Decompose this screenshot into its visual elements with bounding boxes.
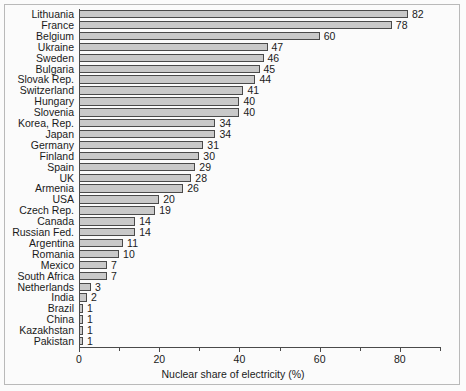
x-axis-tick-label: 80 xyxy=(394,353,406,365)
x-axis-major-tick xyxy=(320,347,321,352)
x-axis-minor-tick xyxy=(119,347,120,351)
x-axis-tick-label: 40 xyxy=(234,353,246,365)
bar-value-label: 60 xyxy=(324,30,336,42)
bar xyxy=(79,195,159,203)
bar-row: Canada14 xyxy=(79,216,440,227)
bar-row: South Africa7 xyxy=(79,271,440,282)
bar xyxy=(79,10,408,18)
bar-value-label: 19 xyxy=(159,204,171,216)
y-axis-line xyxy=(79,9,80,347)
bar-row: USA20 xyxy=(79,194,440,205)
x-axis-tick-label: 60 xyxy=(314,353,326,365)
bar xyxy=(79,206,155,214)
bar xyxy=(79,108,239,116)
bar xyxy=(79,152,199,160)
bar-row: China1 xyxy=(79,314,440,325)
x-axis-major-tick xyxy=(400,347,401,352)
x-axis-tick-label: 0 xyxy=(76,353,82,365)
bar xyxy=(79,184,183,192)
bar xyxy=(79,32,320,40)
bar-value-label: 82 xyxy=(412,8,424,20)
bar xyxy=(79,21,392,29)
bar xyxy=(79,174,191,182)
bar-row: Germany31 xyxy=(79,140,440,151)
x-axis-tick-label: 20 xyxy=(153,353,165,365)
x-axis-major-tick xyxy=(159,347,160,352)
x-axis-line xyxy=(79,347,440,348)
bar xyxy=(79,228,135,236)
bar xyxy=(79,130,215,138)
plot-area: Lithuania82France78Belgium60Ukraine47Swe… xyxy=(79,9,440,347)
bar xyxy=(79,239,123,247)
bar-row: Spain29 xyxy=(79,162,440,173)
bar-row: Armenia26 xyxy=(79,183,440,194)
bar-value-label: 40 xyxy=(243,106,255,118)
bar-row: Finland30 xyxy=(79,151,440,162)
bar-value-label: 44 xyxy=(259,73,271,85)
bar xyxy=(79,272,107,280)
bar xyxy=(79,141,203,149)
bar-row: Hungary40 xyxy=(79,96,440,107)
x-axis-minor-tick xyxy=(440,347,441,351)
x-axis-minor-tick xyxy=(280,347,281,351)
bar-row: France78 xyxy=(79,20,440,31)
bar-row: India2 xyxy=(79,292,440,303)
bar xyxy=(79,250,119,258)
bar-row: Ukraine47 xyxy=(79,42,440,53)
bar xyxy=(79,283,91,291)
bar-row: Slovak Rep.44 xyxy=(79,74,440,85)
bar xyxy=(79,119,215,127)
x-axis-major-tick xyxy=(79,347,80,352)
bar-row: Slovenia40 xyxy=(79,107,440,118)
bar-row: Kazakhstan1 xyxy=(79,325,440,336)
bar xyxy=(79,86,243,94)
x-axis-title: Nuclear share of electricity (%) xyxy=(0,368,466,380)
bar xyxy=(79,97,239,105)
bar xyxy=(79,261,107,269)
bar xyxy=(79,217,135,225)
bar xyxy=(79,65,260,73)
bar-row: Brazil1 xyxy=(79,303,440,314)
bar-row: Netherlands3 xyxy=(79,282,440,293)
bar-value-label: 7 xyxy=(111,270,117,282)
bar-row: Romania10 xyxy=(79,249,440,260)
bar-value-label: 14 xyxy=(139,226,151,238)
x-axis-minor-tick xyxy=(360,347,361,351)
bar xyxy=(79,43,268,51)
bar-row: Japan34 xyxy=(79,129,440,140)
bar-value-label: 1 xyxy=(87,335,93,347)
bar-row: Mexico7 xyxy=(79,260,440,271)
bar xyxy=(79,163,195,171)
bar-category-label: Pakistan xyxy=(0,335,74,347)
x-axis-major-tick xyxy=(239,347,240,352)
bar-value-label: 26 xyxy=(187,182,199,194)
bar-row: Korea, Rep.34 xyxy=(79,118,440,129)
bar-row: Pakistan1 xyxy=(79,336,440,347)
bar-row: Switzerland41 xyxy=(79,85,440,96)
bar-row: UK28 xyxy=(79,173,440,184)
bar xyxy=(79,54,264,62)
bar-value-label: 10 xyxy=(123,248,135,260)
bar-value-label: 34 xyxy=(219,128,231,140)
chart-figure: Lithuania82France78Belgium60Ukraine47Swe… xyxy=(0,0,466,391)
bar-row: Belgium60 xyxy=(79,31,440,42)
bar-row: Sweden46 xyxy=(79,53,440,64)
bar xyxy=(79,293,87,301)
bar xyxy=(79,75,255,83)
bar-row: Lithuania82 xyxy=(79,9,440,20)
bar-row: Czech Rep.19 xyxy=(79,205,440,216)
x-axis-minor-tick xyxy=(199,347,200,351)
bar-value-label: 78 xyxy=(396,19,408,31)
